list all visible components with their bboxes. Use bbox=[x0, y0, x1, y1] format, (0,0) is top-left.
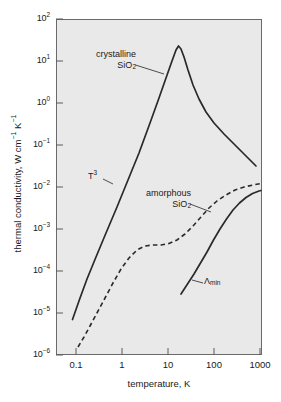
annotation-crystalline-line1: crystalline bbox=[96, 49, 136, 59]
annotation-t-cubed: T3 bbox=[88, 171, 97, 182]
x-tick-label-10: 10 bbox=[148, 360, 188, 370]
curve-crystalline-sio2 bbox=[73, 46, 257, 320]
y-tick-label-1e2: 102 bbox=[4, 14, 50, 23]
x-tick-label-1: 1 bbox=[102, 360, 142, 370]
y-tick-label-1e-5: 10−5 bbox=[4, 308, 50, 317]
annotation-amorphous-sio2: amorphous SiO2 bbox=[113, 188, 191, 209]
x-axis-title: temperature, K bbox=[56, 378, 262, 389]
x-axis-ticks bbox=[76, 348, 260, 355]
leader-line-amorphous bbox=[190, 204, 211, 212]
x-tick-label-0.1: 0.1 bbox=[56, 360, 96, 370]
y-axis-title: thermal conductivity, W cm−1 K−1 bbox=[12, 84, 23, 284]
x-tick-label-1000: 1000 bbox=[240, 360, 280, 370]
y-tick-label-1e-6: 10−6 bbox=[4, 350, 50, 359]
annotation-amorphous-line2: SiO2 bbox=[172, 199, 191, 209]
annotation-amorphous-line1: amorphous bbox=[146, 188, 191, 198]
annotation-crystalline-sio2: crystalline SiO2 bbox=[60, 49, 136, 70]
y-tick-label-1e1: 101 bbox=[4, 56, 50, 65]
leader-line-lambda-min bbox=[192, 280, 203, 283]
x-tick-label-100: 100 bbox=[194, 360, 234, 370]
leader-line-crystalline bbox=[136, 65, 165, 74]
curve-lambda-min bbox=[181, 191, 261, 295]
annotation-lambda-min: Λmin bbox=[204, 276, 221, 287]
thermal-conductivity-figure: 102 101 100 10−1 10−2 10−3 10−4 10−5 10−… bbox=[0, 0, 281, 402]
leader-line-t-cubed bbox=[103, 179, 113, 184]
annotation-crystalline-line2: SiO2 bbox=[117, 60, 136, 70]
